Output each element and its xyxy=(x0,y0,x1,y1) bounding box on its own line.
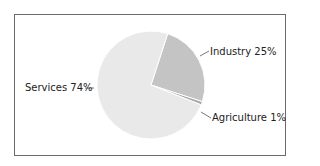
services-label: Services 74% xyxy=(25,82,93,94)
agriculture-label: Agriculture 1% xyxy=(212,112,286,124)
agriculture-leader-line xyxy=(201,112,211,118)
industry-label: Industry 25% xyxy=(210,46,277,58)
industry-leader-line xyxy=(200,51,209,56)
